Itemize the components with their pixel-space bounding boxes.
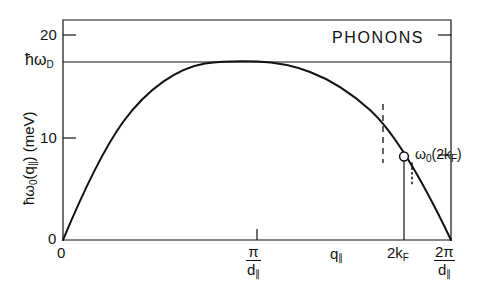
phonon-dispersion-curve [63, 61, 451, 240]
fraction-d-sub-2: ∥ [446, 268, 451, 279]
x-axis-title-sub: ∥ [338, 252, 343, 263]
fraction-pi-over-d: π d∥ [246, 244, 261, 279]
y-axis-title-arg-sub: ∥ [27, 161, 38, 166]
fraction-d-main-2: d [438, 261, 446, 278]
y-tick-label-20: 20 [40, 27, 57, 42]
two-kf-main: 2k [387, 244, 403, 261]
fraction-d-sub: ∥ [255, 268, 260, 279]
y-axis-title-sub-zero: 0 [28, 179, 39, 185]
annot-arg-close: ) [457, 146, 462, 162]
omega-zero-two-kf-annotation: ω0(2kF) [415, 147, 462, 164]
hbar-omega-d-label: ħωD [25, 52, 54, 70]
fraction-two-pi-numerator: 2π [434, 244, 455, 259]
fraction-pi-numerator: π [246, 244, 261, 259]
two-kf-sub: F [403, 252, 409, 263]
y-axis-title-units: (meV) [20, 111, 37, 152]
y-tick-label-10: 10 [40, 130, 57, 145]
y-axis-title-hbar-omega: ħω [20, 185, 37, 205]
x-tick-label-two-kf: 2kF [387, 245, 409, 263]
fraction-two-pi-over-d: 2π d∥ [434, 244, 455, 279]
fraction-d-denominator: d∥ [246, 262, 261, 279]
x-axis-title: q∥ [330, 246, 343, 263]
hbar-omega-d-label-sub: D [46, 59, 53, 70]
y-axis-ticks [63, 35, 76, 138]
annot-arg-open: (2k [432, 146, 451, 162]
plot-title-phonons: PHONONS [332, 30, 424, 46]
y-axis-right-ticks [438, 35, 451, 155]
annot-omega-main: ω [415, 146, 426, 162]
y-axis-title: ħω0(q∥) (meV) [20, 111, 39, 205]
x-tick-label-pi-over-d: π d∥ [246, 244, 261, 279]
phonon-dispersion-figure: PHONONS 20 10 0 ħωD ħω0(q∥) (meV) 0 π d∥… [0, 0, 485, 294]
fraction-d-denominator-2: d∥ [434, 262, 455, 279]
x-tick-label-two-pi-over-d: 2π d∥ [434, 244, 455, 279]
x-tick-label-0: 0 [57, 245, 66, 260]
y-tick-label-0: 0 [48, 231, 57, 246]
y-axis-title-arg-close: ) [20, 156, 37, 161]
y-axis-title-arg-open: (q [20, 166, 37, 179]
axes-frame [63, 20, 451, 240]
hbar-omega-d-label-main: ħω [25, 51, 46, 68]
omega-zero-two-kf-marker [400, 152, 409, 161]
